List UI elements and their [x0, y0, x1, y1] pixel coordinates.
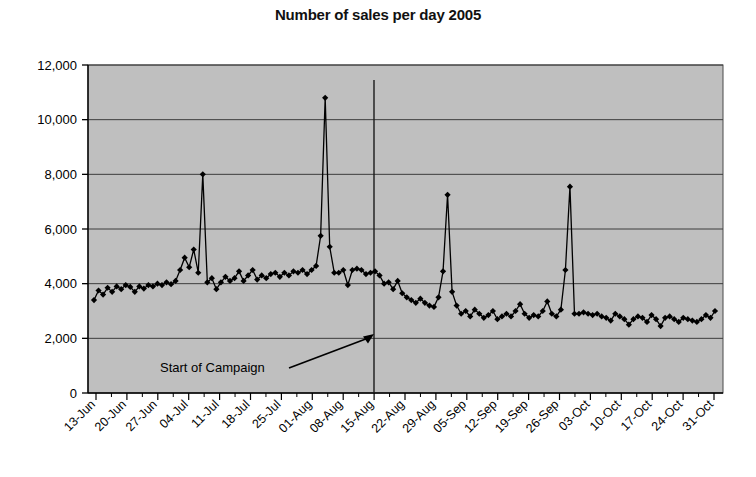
x-tick-label: 18-Jul [219, 397, 253, 431]
y-tick-label: 8,000 [44, 167, 77, 182]
x-tick-label: 20-Jun [92, 397, 129, 434]
x-tick-label: 17-Oct [618, 397, 655, 434]
x-tick-label: 26-Sep [523, 397, 561, 435]
x-axis-labels: 13-Jun20-Jun27-Jun04-Jul11-Jul18-Jul25-J… [61, 397, 716, 436]
x-tick-label: 31-Oct [680, 397, 717, 434]
x-tick-label: 11-Jul [188, 397, 221, 430]
x-tick-label: 19-Sep [492, 397, 530, 435]
x-tick-label: 15-Aug [338, 397, 376, 435]
x-tick-label: 08-Aug [307, 397, 345, 435]
x-tick-label: 01-Aug [276, 397, 314, 435]
x-tick-label: 22-Aug [369, 397, 407, 435]
x-tick-label: 10-Oct [587, 397, 624, 434]
chart-title: Number of sales per day 2005 [0, 6, 756, 23]
x-tick-label: 04-Jul [157, 397, 191, 431]
y-tick-label: 2,000 [44, 331, 77, 346]
y-axis-ticks: 02,0004,0006,0008,00010,00012,000 [37, 58, 88, 401]
campaign-annotation-label: Start of Campaign [160, 360, 265, 375]
x-tick-label: 27-Jun [123, 397, 160, 434]
x-tick-label: 29-Aug [400, 397, 438, 435]
y-tick-label: 0 [70, 386, 77, 401]
x-tick-label: 12-Sep [461, 397, 499, 435]
x-tick-label: 03-Oct [556, 397, 593, 434]
sales-line-chart: 02,0004,0006,0008,00010,00012,000 13-Jun… [0, 0, 756, 477]
x-axis-ticks [96, 393, 714, 400]
y-tick-label: 6,000 [44, 222, 77, 237]
y-tick-label: 12,000 [37, 58, 77, 73]
x-tick-label: 13-Jun [61, 397, 98, 434]
y-tick-label: 10,000 [37, 112, 77, 127]
y-tick-label: 4,000 [44, 276, 77, 291]
x-tick-label: 05-Sep [431, 397, 469, 435]
x-tick-label: 24-Oct [649, 397, 686, 434]
chart-container: Number of sales per day 2005 02,0004,000… [0, 0, 756, 477]
